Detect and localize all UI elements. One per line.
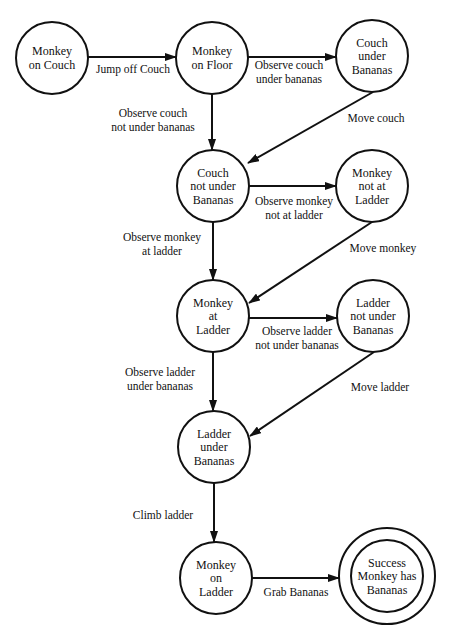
edge-ladder_not_under_bananas-to-ladder_under_bananas: Move ladder [250,352,409,436]
transition-arrow [248,92,373,163]
edge-couch_not_under_bananas-to-monkey_at_ladder: Observe monkeyat ladder [123,222,213,280]
state-node-monkey_on_couch: Monkeyon Couch [16,22,88,94]
edge-couch_not_under_bananas-to-monkey_not_at_ladder: Observe monkeynot at ladder [249,186,336,221]
transition-label: Jump off Couch [96,63,170,76]
state-node-ladder_under_bananas: LadderunderBananas [178,411,250,483]
transition-label: Observe laddernot under bananas [255,325,339,351]
edge-monkey_at_ladder-to-ladder_under_bananas: Observe ladderunder bananas [125,352,213,411]
transition-label: Observe couchnot under bananas [111,107,195,133]
transition-label: Observe couchunder bananas [255,59,324,85]
transition-label: Grab Bananas [264,586,329,598]
transition-label: Observe ladderunder bananas [125,366,195,392]
state-label: Monkeyon Floor [191,44,232,72]
transition-label: Observe monkeyat ladder [123,231,201,257]
edge-monkey_on_couch-to-monkey_on_floor: Jump off Couch [88,57,176,76]
state-node-success: SuccessMonkey hasBananas [339,528,435,624]
transition-label: Climb ladder [133,509,194,521]
transition-label: Observe monkeynot at ladder [255,195,333,221]
edge-monkey_on_floor-to-couch_under_bananas: Observe couchunder bananas [248,57,336,85]
state-node-ladder_not_under_bananas: Laddernot underBananas [337,280,409,352]
nodes-layer: Monkeyon CouchMonkeyon FloorCouchunderBa… [16,20,435,624]
transition-arrow [250,352,374,436]
state-label: Monkeyon Couch [29,44,75,72]
transition-label: Move monkey [350,242,417,255]
edge-monkey_at_ladder-to-ladder_not_under_bananas: Observe laddernot under bananas [249,318,339,351]
edge-monkey_on_ladder-to-success: Grab Bananas [252,578,339,598]
state-node-monkey_at_ladder: MonkeyatLadder [177,280,249,352]
state-label: Laddernot underBananas [350,296,396,337]
state-node-couch_under_bananas: CouchunderBananas [336,20,408,92]
state-node-monkey_on_floor: Monkeyon Floor [176,22,248,94]
state-node-monkey_not_at_ladder: Monkeynot atLadder [336,150,408,222]
transition-label: Move ladder [351,381,410,393]
edge-ladder_under_bananas-to-monkey_on_ladder: Climb ladder [133,483,214,542]
transition-label: Move couch [347,112,404,124]
state-node-monkey_on_ladder: MonkeyonLadder [180,542,252,614]
state-diagram: Jump off CouchObserve couchunder bananas… [0,0,452,640]
edge-monkey_on_floor-to-couch_not_under_bananas: Observe couchnot under bananas [111,94,212,150]
state-node-couch_not_under_bananas: Couchnot underBananas [177,150,249,222]
